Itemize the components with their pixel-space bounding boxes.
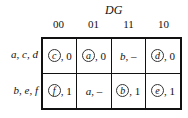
table-cell: b, – [112, 39, 146, 74]
stable-state-circle: c [48, 49, 61, 62]
flow-table-grid: c, 0 a, 0 b, – d, 0 f, 1 a, – b, 1 e, 1 [41, 37, 182, 110]
table-cell: f, 1 [43, 74, 77, 109]
stable-state-circle: d [151, 49, 164, 62]
next-state: a [86, 85, 92, 97]
table-cell: e, 1 [146, 74, 180, 109]
next-state: b [120, 50, 126, 62]
row-header-2: b, e, f [0, 84, 38, 96]
row-header-1: a, c, d [0, 48, 38, 60]
column-header-01: 01 [76, 18, 111, 30]
stable-state-circle: f [48, 84, 61, 97]
output-value: 1 [169, 85, 175, 97]
output-value: 0 [66, 50, 72, 62]
output-value: 0 [169, 50, 175, 62]
stable-state-circle: a [82, 49, 95, 62]
column-header-10: 10 [146, 18, 181, 30]
output-value: – [131, 50, 137, 62]
table-cell: c, 0 [43, 39, 77, 74]
output-value: 1 [66, 85, 72, 97]
output-value: 1 [135, 85, 141, 97]
stable-state-circle: e [151, 84, 164, 97]
table-cell: a, 0 [77, 39, 111, 74]
column-header-00: 00 [41, 18, 76, 30]
table-cell: a, – [77, 74, 111, 109]
output-value: – [97, 85, 103, 97]
column-variable-label: DG [105, 3, 122, 18]
column-header-11: 11 [111, 18, 146, 30]
table-cell: d, 0 [146, 39, 180, 74]
output-value: 0 [100, 50, 106, 62]
stable-state-circle: b [116, 84, 129, 97]
table-cell: b, 1 [112, 74, 146, 109]
